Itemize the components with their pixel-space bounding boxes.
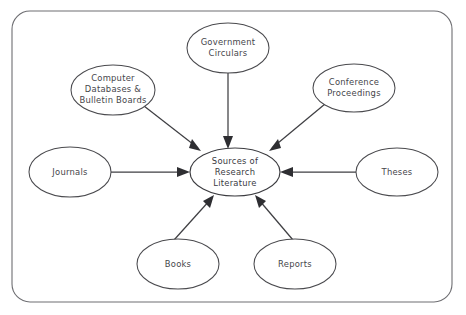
- node-theses[interactable]: Theses: [356, 148, 438, 196]
- node-label-line: Books: [165, 259, 191, 269]
- node-label-line: Proceedings: [327, 88, 381, 98]
- arrowhead-icon: [189, 139, 201, 151]
- arrowhead-icon: [269, 139, 281, 151]
- edge-journals-to-center: [111, 167, 190, 177]
- arrowhead-icon: [177, 167, 190, 177]
- edge-reports-to-center: [255, 195, 293, 240]
- center-label-line: Research: [215, 167, 255, 177]
- node-label-line: Databases &: [85, 84, 141, 94]
- research-sources-diagram: Computer Databases & Bulletin Boards Gov…: [0, 0, 466, 315]
- node-journals[interactable]: Journals: [29, 147, 111, 197]
- node-label-line: Circulars: [209, 48, 248, 58]
- arrowhead-icon: [223, 136, 233, 149]
- node-label-line: Reports: [278, 259, 312, 269]
- node-label-line: Bulletin Boards: [79, 95, 146, 105]
- edge-government-circulars-to-center: [223, 73, 233, 149]
- center-label-line: Sources of: [212, 156, 259, 166]
- edge-theses-to-center: [280, 167, 356, 177]
- edge-conference-proceedings-to-center: [269, 104, 325, 151]
- node-government-circulars[interactable]: Government Circulars: [187, 23, 269, 73]
- node-label-line: Government: [201, 37, 256, 47]
- node-label-line: Theses: [381, 167, 413, 177]
- center-label-line: Literature: [213, 178, 257, 188]
- node-label-line: Conference: [329, 77, 379, 87]
- node-label-line: Journals: [51, 167, 87, 177]
- node-computer-databases-and-bulletin-boards[interactable]: Computer Databases & Bulletin Boards: [71, 65, 155, 115]
- node-books[interactable]: Books: [137, 239, 219, 289]
- node-conference-proceedings[interactable]: Conference Proceedings: [313, 64, 395, 112]
- arrowhead-icon: [280, 167, 293, 177]
- node-reports[interactable]: Reports: [254, 239, 336, 289]
- edge-computer-databases-to-center: [144, 106, 201, 151]
- node-label-line: Computer: [91, 73, 135, 83]
- edge-books-to-center: [174, 195, 214, 240]
- diagram-page: Computer Databases & Bulletin Boards Gov…: [0, 0, 466, 315]
- node-sources-of-research-literature[interactable]: Sources of Research Literature: [190, 148, 280, 196]
